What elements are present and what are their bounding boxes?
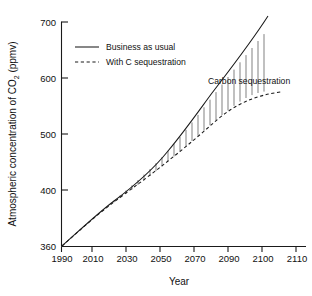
y-axis-title-pre: Atmospheric concentration of CO: [7, 79, 18, 227]
y-axis-title: Atmospheric concentration of CO2 (ppmv): [7, 41, 20, 226]
y-axis-title-post: (ppmv): [7, 41, 18, 75]
x-tick-label-2030: 2030: [116, 253, 137, 264]
x-tick-label-2050: 2050: [150, 253, 171, 264]
chart-figure: 700 600 500 400 360 1990 2010 2030 2050 …: [0, 0, 312, 296]
x-tick-label-1990: 1990: [51, 253, 72, 264]
y-tick-label-400: 400: [40, 185, 56, 196]
x-tick-label-2090: 2090: [218, 253, 239, 264]
y-tick-label-500: 500: [40, 129, 56, 140]
x-tick-label-2070: 2070: [184, 253, 205, 264]
x-tick-label-2010: 2010: [82, 253, 103, 264]
annotation-carbon-sequestration: Carbon sequestration: [208, 76, 290, 86]
x-axis-title: Year: [169, 276, 190, 287]
legend-label-business-as-usual: Business as usual: [106, 42, 175, 52]
x-tick-label-2110: 2110: [287, 253, 307, 264]
x-tick-label-2100: 2100: [252, 253, 273, 264]
co2-projection-chart: 700 600 500 400 360 1990 2010 2030 2050 …: [0, 0, 312, 296]
y-tick-label-360: 360: [40, 241, 56, 252]
y-axis-title-group: Atmospheric concentration of CO2 (ppmv): [7, 41, 20, 226]
legend-label-with-c-sequestration: With C sequestration: [106, 57, 186, 67]
y-tick-label-600: 600: [40, 73, 56, 84]
y-tick-label-700: 700: [40, 17, 56, 28]
